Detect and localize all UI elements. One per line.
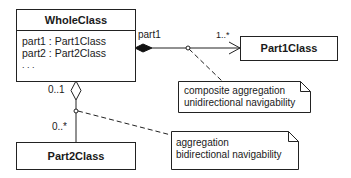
note1-connector — [189, 49, 222, 81]
note1-line2: unidirectional navigability — [184, 97, 295, 109]
multiplicity-1-many: 1..* — [216, 30, 230, 40]
class-name: WholeClass — [17, 10, 135, 31]
note2-connector — [78, 111, 171, 135]
role-label-part1: part1 — [138, 29, 161, 40]
note2-line1: aggregation — [176, 137, 282, 149]
attribute-part1: part1 : Part1Class — [22, 35, 135, 47]
class-part1[interactable]: Part1Class — [240, 36, 338, 61]
class-name: Part1Class — [241, 37, 337, 60]
note2-text: aggregation bidirectional navigability — [176, 137, 282, 161]
class-part2[interactable]: Part2Class — [16, 142, 136, 170]
hollow-diamond-icon — [71, 81, 81, 100]
note1-text: composite aggregation unidirectional nav… — [184, 85, 295, 109]
attribute-list: part1 : Part1Class part2 : Part2Class . … — [17, 31, 135, 71]
note2-line2: bidirectional navigability — [176, 149, 282, 161]
multiplicity-0-1: 0..1 — [48, 84, 65, 95]
class-name: Part2Class — [17, 143, 135, 169]
attribute-part2: part2 : Part2Class — [22, 47, 135, 59]
class-whole[interactable]: WholeClass part1 : Part1Class part2 : Pa… — [16, 9, 136, 82]
note1-line1: composite aggregation — [184, 85, 295, 97]
filled-diamond-icon — [135, 44, 152, 52]
attribute-ellipsis: . . . — [22, 59, 135, 71]
multiplicity-0-many: 0..* — [52, 121, 67, 132]
note-anchor-icon — [74, 109, 78, 113]
